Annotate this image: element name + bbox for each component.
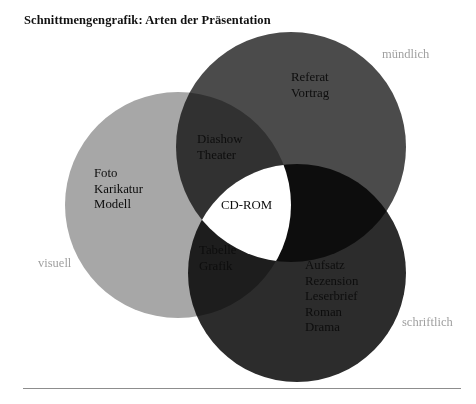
item-line: Referat [291, 70, 329, 86]
intersection-items-triple: CD-ROM [221, 198, 272, 214]
item-line: Roman [305, 305, 358, 321]
item-line: Karikatur [94, 182, 143, 198]
item-line: Rezension [305, 274, 358, 290]
item-line: Leserbrief [305, 289, 358, 305]
item-line: Foto [94, 166, 143, 182]
bottom-divider [23, 388, 461, 389]
item-line: Grafik [199, 259, 236, 275]
intersection-items-visuell-muendlich: DiashowTheater [197, 132, 243, 163]
item-line: Drama [305, 320, 358, 336]
item-line: Aufsatz [305, 258, 358, 274]
outer-label-muendlich: mündlich [382, 47, 429, 62]
item-line: Vortrag [291, 86, 329, 102]
item-line: Tabelle [199, 243, 236, 259]
set-items-muendlich: ReferatVortrag [291, 70, 329, 101]
outer-label-schriftlich: schriftlich [402, 315, 453, 330]
item-line: Diashow [197, 132, 243, 148]
venn-diagram-page: Schnittmengengrafik: Arten der Präsentat… [0, 0, 476, 404]
outer-label-visuell: visuell [38, 256, 71, 271]
item-line: Theater [197, 148, 243, 164]
set-items-visuell: FotoKarikaturModell [94, 166, 143, 213]
item-line: Modell [94, 197, 143, 213]
set-items-schriftlich: AufsatzRezensionLeserbriefRomanDrama [305, 258, 358, 336]
intersection-items-visuell-schriftlich: TabelleGrafik [199, 243, 236, 274]
